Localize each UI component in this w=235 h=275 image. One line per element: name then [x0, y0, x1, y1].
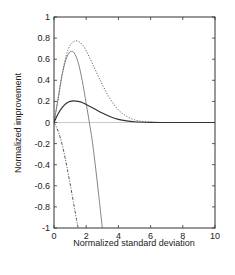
series-group [54, 41, 215, 228]
solid-thick-curve [54, 101, 215, 123]
y-tick-label: -0.6 [34, 181, 50, 191]
line-chart: 0246810 10.80.60.40.20-0.2-0.4-0.6-0.8-1… [0, 0, 235, 275]
x-tick-label: 0 [51, 231, 56, 241]
y-tick-label: 0.6 [37, 54, 50, 64]
y-tick-label: -0.2 [34, 139, 50, 149]
y-tick-label: -1 [42, 223, 50, 233]
y-tick-label: 0.8 [37, 33, 50, 43]
y-tick-label: 0.4 [37, 75, 50, 85]
y-tick-label: 0 [45, 118, 50, 128]
y-tick-label: -0.8 [34, 202, 50, 212]
dotted-curve [54, 41, 215, 123]
y-axis-label: Normalized improvement [13, 72, 23, 173]
y-tick-label: 1 [45, 12, 50, 22]
x-axis-label: Normalized standard deviation [73, 238, 195, 248]
x-tick-label: 10 [210, 231, 220, 241]
y-tick-label: 0.2 [37, 96, 50, 106]
y-tick-labels: 10.80.60.40.20-0.2-0.4-0.6-0.8-1 [34, 12, 50, 233]
y-tick-label: -0.4 [34, 160, 50, 170]
dash-dot-curve [54, 123, 78, 229]
